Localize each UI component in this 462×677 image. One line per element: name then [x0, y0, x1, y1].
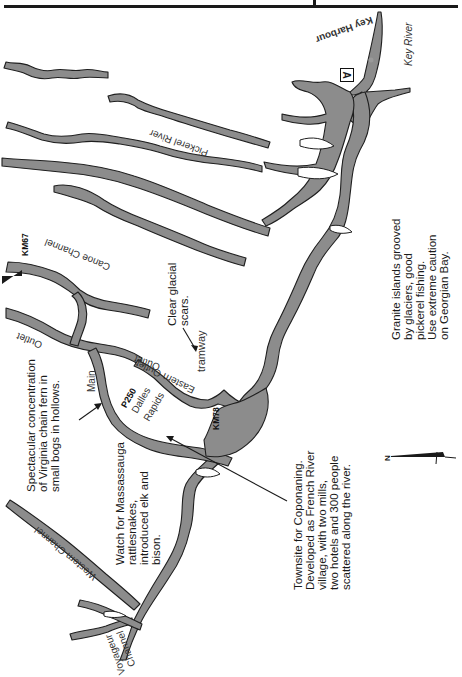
note-line: Use extreme caution	[426, 219, 438, 340]
label-main: Main	[87, 370, 98, 392]
note-line: Spectacular concentration	[25, 359, 37, 492]
note-line: scattered along the river.	[340, 451, 352, 590]
note-massassauga: Watch for Massassauga rattlesnakes, intr…	[114, 442, 162, 565]
label-km67: KM67	[21, 233, 30, 256]
note-line: of Virginia chain fern in	[37, 359, 49, 492]
note-line: Clear glacial	[166, 263, 178, 326]
north-arrow-icon	[391, 452, 456, 464]
key-harbour-marker-icon	[369, 58, 374, 63]
island-5	[104, 611, 126, 617]
note-glacial-scars: Clear glacial scars.	[166, 263, 190, 326]
campsite-icon: A	[340, 68, 354, 82]
island-4	[196, 468, 220, 477]
note-line: village, with two mills,	[316, 451, 328, 590]
note-line: introduced elk and	[138, 442, 150, 565]
note-line: rattlesnakes,	[126, 442, 138, 565]
campsite-symbol-text: A	[342, 71, 353, 78]
canoe-connector	[70, 292, 87, 346]
island-3	[330, 225, 352, 233]
note-line: bison.	[150, 442, 162, 565]
note-line: small bogs in hollows.	[49, 359, 61, 492]
pickerel-far-branch	[4, 62, 108, 79]
note-virginia-fern: Spectacular concentration of Virginia ch…	[25, 359, 61, 492]
label-km78: KM78	[212, 407, 221, 430]
note-line: Granite islands grooved	[390, 219, 402, 340]
note-line: Watch for Massassauga	[114, 442, 126, 565]
note-line: Townsite for Coponaning.	[292, 451, 304, 590]
label-north: N	[384, 455, 392, 461]
note-granite: Granite islands grooved by glaciers, goo…	[390, 219, 450, 340]
label-key-river: Key River	[404, 23, 415, 66]
note-line: Developed as French River	[304, 451, 316, 590]
label-tramway: tramway	[196, 330, 208, 372]
note-line: on Georgian Bay.	[438, 219, 450, 340]
note-line: pickerel fishing.	[414, 219, 426, 340]
note-line: scars.	[178, 263, 190, 326]
note-coponaning: Townsite for Coponaning. Developed as Fr…	[292, 451, 352, 590]
canoe-channel	[6, 262, 150, 318]
note-line: by glaciers, good	[402, 219, 414, 340]
note-line: two hotels and 300 people	[328, 451, 340, 590]
